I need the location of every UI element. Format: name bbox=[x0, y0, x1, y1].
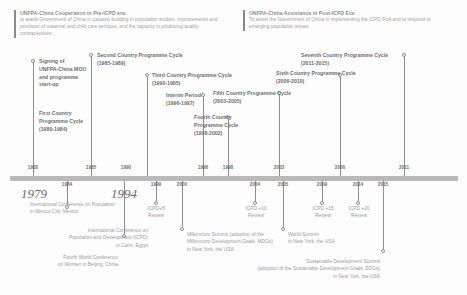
event-label-sustainable-development-summit: Sustainable Development Summit (adoption… bbox=[248, 258, 380, 280]
tick-line-1990 bbox=[147, 76, 148, 176]
event-label-icpd-plus-10: ICPD +10 Review bbox=[237, 205, 275, 220]
year-label-2009: 2009 bbox=[317, 182, 327, 187]
year-label-2004: 2004 bbox=[250, 182, 260, 187]
node-1990 bbox=[145, 73, 149, 77]
cycle-sixth-period: (2006-2010) bbox=[276, 78, 304, 84]
cycle-first-name: First Country Programme Cycle bbox=[39, 110, 83, 124]
cycle-third-name: Third Country Programme Cycle bbox=[152, 72, 232, 78]
cycle-seventh-name: Seventh Country Programme Cycle bbox=[301, 52, 388, 58]
cycle-first-period: (1980-1984) bbox=[39, 126, 67, 132]
year-label-1980: 1980 bbox=[28, 165, 38, 170]
cycle-fifth-period: (2003-2005) bbox=[213, 98, 241, 104]
cycle-label-fifth: Fifth Country Programme Cycle (2003-2005… bbox=[213, 90, 333, 106]
event-label-beijing-women: Fourth World Conference on Women in Beij… bbox=[28, 254, 118, 269]
tick-line-2000 bbox=[182, 181, 183, 229]
tick-line-1979 bbox=[33, 62, 34, 176]
cycle-second-period: (1985-1989) bbox=[97, 60, 125, 66]
year-label-2011: 2011 bbox=[399, 165, 409, 170]
year-label-1990: 1990 bbox=[121, 165, 131, 170]
era-post-icpd-title: UNFPA-China Assistance in Post-ICPD Era: bbox=[249, 10, 448, 17]
year-label-2015: 2015 bbox=[378, 182, 388, 187]
tick-line-2006 bbox=[340, 76, 341, 176]
cycle-label-fourth: Fourth Country Programme Cycle (1998-200… bbox=[194, 114, 260, 137]
year-label-1999: 1999 bbox=[151, 182, 161, 187]
tick-line-2011 bbox=[404, 56, 405, 176]
cycle-fifth-name: Fifth Country Programme Cycle bbox=[213, 90, 291, 96]
event-label-icpd-plus-15: ICPD +15 Review bbox=[304, 205, 342, 220]
year-emphasis-1979: 1979 bbox=[21, 186, 47, 202]
tick-line-2003 bbox=[279, 94, 280, 176]
year-label-1996: 1996 bbox=[198, 165, 208, 170]
node-1985 bbox=[89, 53, 93, 57]
event-label-icpd-plus-20: ICPD +20 Review bbox=[340, 205, 378, 220]
era-pre-icpd-title: UNFPA-China Cooperation in Pre-ICPD era: bbox=[20, 10, 224, 17]
node-2000 bbox=[180, 227, 184, 231]
year-label-1998: 1998 bbox=[223, 165, 233, 170]
year-label-1984: 1984 bbox=[62, 182, 72, 187]
cycle-seventh-period: (2011-2015) bbox=[301, 60, 329, 66]
cycle-sixth-name: Sixth Country Programme Cycle bbox=[276, 70, 356, 76]
cycle-interim-name: Interim Period bbox=[166, 92, 201, 98]
cycle-second-name: Second Country Programme Cycle bbox=[97, 52, 183, 58]
year-label-2005: 2005 bbox=[278, 182, 288, 187]
event-label-cairo-icpd: International Conference on Population a… bbox=[28, 227, 148, 249]
cycle-label-seventh: Seventh Country Programme Cycle (2011-20… bbox=[301, 52, 421, 68]
cycle-fourth-period: (1998-2002) bbox=[194, 130, 222, 136]
cycle-label-sixth: Sixth Country Programme Cycle (2006-2010… bbox=[276, 70, 396, 86]
year-label-1985: 1985 bbox=[86, 165, 96, 170]
cycle-label-second: Second Country Programme Cycle (1985-198… bbox=[97, 52, 217, 68]
cycle-fourth-name: Fourth Country Programme Cycle bbox=[194, 114, 238, 128]
year-label-2006: 2006 bbox=[335, 165, 345, 170]
year-label-2000: 2000 bbox=[177, 182, 187, 187]
timeline-axis bbox=[10, 176, 458, 181]
tick-line-2015 bbox=[383, 181, 384, 251]
event-label-world-summit: World Summit in New York, the USA bbox=[288, 231, 368, 246]
event-label-icpd-plus-5: ICPD+5 Review bbox=[138, 205, 174, 220]
cycle-label-third: Third Country Programme Cycle (1990-1995… bbox=[152, 72, 272, 88]
era-box-pre-icpd: UNFPA-China Cooperation in Pre-ICPD era:… bbox=[14, 10, 224, 38]
tick-line-2005 bbox=[283, 181, 284, 229]
year-emphasis-1994: 1994 bbox=[111, 186, 137, 202]
timeline-infographic: UNFPA-China Cooperation in Pre-ICPD era:… bbox=[0, 0, 467, 295]
year-label-2003: 2003 bbox=[274, 165, 284, 170]
node-2015 bbox=[381, 249, 385, 253]
era-pre-icpd-description: to assist Government of China in capacit… bbox=[20, 17, 224, 38]
era-post-icpd-description: To assist the Government of China in imp… bbox=[249, 17, 448, 31]
cycle-interim-period: (1996-1997) bbox=[166, 100, 194, 106]
cycle-label-first: First Country Programme Cycle (1980-1984… bbox=[39, 110, 109, 133]
year-label-2014: 2014 bbox=[353, 182, 363, 187]
node-1979 bbox=[31, 59, 35, 63]
era-box-post-icpd: UNFPA-China Assistance in Post-ICPD Era:… bbox=[243, 10, 448, 31]
cycle-third-period: (1990-1995) bbox=[152, 80, 180, 86]
